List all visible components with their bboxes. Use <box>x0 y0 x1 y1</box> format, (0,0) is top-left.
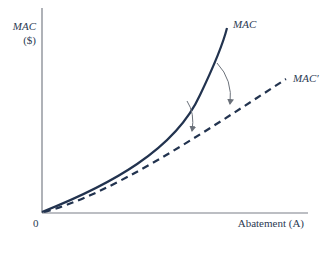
mac-curve <box>42 28 227 212</box>
mac-label: MAC <box>232 18 257 30</box>
mac-prime-label: MAC′ <box>292 72 319 84</box>
mac-prime-curve <box>44 79 286 212</box>
shift-arrow-upper <box>217 63 230 104</box>
y-axis-label-line2: ($) <box>23 34 36 47</box>
y-axis-label-line1: MAC <box>12 20 37 32</box>
x-axis-label: Abatement (A) <box>238 217 305 230</box>
mac-diagram: MAC ($) MAC MAC′ 0 Abatement (A) <box>0 0 328 255</box>
origin-label: 0 <box>33 217 39 229</box>
